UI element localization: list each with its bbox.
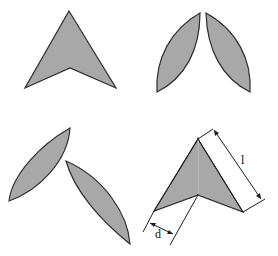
lens-left-top — [157, 13, 200, 92]
extension-line-top — [198, 129, 213, 139]
extension-line-d-left — [143, 211, 154, 232]
arrowhead-shape — [25, 11, 116, 88]
arrow-head-l-bottom — [256, 193, 261, 199]
label-l: l — [241, 153, 245, 167]
lens-right-top — [206, 13, 250, 92]
lens-left-bottom — [9, 128, 70, 201]
figure-canvas: l d — [0, 0, 278, 256]
arrow-head-l-top — [214, 130, 219, 136]
lens-right-bottom — [66, 161, 130, 244]
label-d: d — [155, 227, 161, 241]
extension-line-bottom — [243, 199, 265, 212]
